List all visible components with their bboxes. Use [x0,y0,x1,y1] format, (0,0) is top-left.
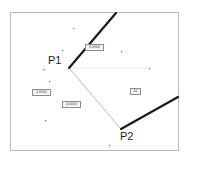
snap-dot [49,81,50,82]
dim-angle[interactable]: 45 [130,88,141,95]
snap-dot [45,120,46,121]
dim-left[interactable]: 2.0000 [32,89,51,96]
snap-dot [43,69,44,70]
snap-dot [109,145,110,146]
construction-line-upper [69,13,116,68]
point-label-p1: P1 [48,55,61,66]
snap-dot [121,51,122,52]
point-label-p2: P2 [120,131,133,142]
snap-dot [62,50,63,51]
construction-line-lower [121,97,178,129]
dim-upper[interactable]: 3.0000 [85,44,104,51]
thick-line-group [69,13,178,129]
diagram-vector-layer [0,0,197,170]
diagram-canvas: P1P2 3.00002.00004.000045 [0,0,197,170]
dim-lower[interactable]: 4.0000 [62,101,81,108]
snap-dot [73,28,74,29]
snap-dot [149,68,150,69]
segment-p1-p2 [69,68,121,129]
